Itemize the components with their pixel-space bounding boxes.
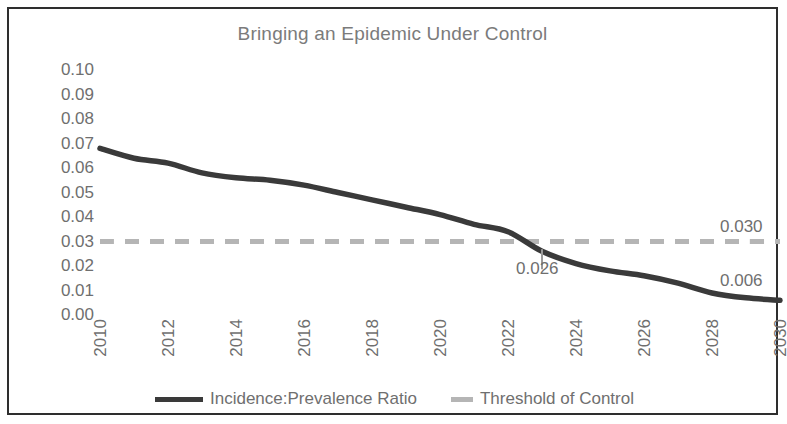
x-axis-tick-label: 2030 [771,319,787,357]
y-axis-tick-label: 0.09 [61,85,94,105]
data-label: 0.026 [516,259,559,279]
y-axis-tick-label: 0.03 [61,232,94,252]
y-axis-tick-label: 0.07 [61,134,94,154]
chart-legend: Incidence:Prevalence Ratio Threshold of … [9,389,780,409]
x-axis-tick-label: 2020 [431,319,451,357]
x-axis-tick-label: 2012 [159,319,179,357]
x-axis-tick-label: 2028 [703,319,723,357]
solid-line-swatch-icon [155,397,203,402]
y-axis-tick-label: 0.06 [61,158,94,178]
y-axis-tick-label: 0.04 [61,207,94,227]
y-axis-tick-label: 0.01 [61,281,94,301]
incidence-prevalence-line [100,148,780,300]
legend-label-incidence-prevalence-ratio: Incidence:Prevalence Ratio [210,389,417,409]
x-axis-tick-label: 2016 [295,319,315,357]
y-axis-tick-label: 0.10 [61,60,94,80]
y-axis-tick-label: 0.05 [61,183,94,203]
x-axis-tick-label: 2014 [227,319,247,357]
y-axis-tick-label: 0.00 [61,305,94,325]
chart-plot-svg [100,70,780,315]
legend-label-threshold-of-control: Threshold of Control [480,389,634,409]
chart-frame: Bringing an Epidemic Under Control 0.100… [7,7,778,415]
x-axis-tick-label: 2010 [91,319,111,357]
x-axis-tick-label: 2018 [363,319,383,357]
legend-item-threshold-of-control[interactable]: Threshold of Control [451,389,634,409]
y-axis-tick-label: 0.08 [61,109,94,129]
y-axis: 0.100.090.080.070.060.050.040.030.020.01… [9,70,94,315]
x-axis-tick-label: 2026 [635,319,655,357]
dashed-line-swatch-icon [451,397,473,402]
x-axis-tick-label: 2022 [499,319,519,357]
legend-item-incidence-prevalence-ratio[interactable]: Incidence:Prevalence Ratio [155,389,417,409]
data-label: 0.006 [720,271,763,291]
chart-title: Bringing an Epidemic Under Control [9,23,776,45]
y-axis-tick-label: 0.02 [61,256,94,276]
x-axis-tick-label: 2024 [567,319,587,357]
x-axis: 2010201220142016201820202022202420262028… [100,319,780,381]
data-label: 0.030 [720,217,763,237]
plot-area [100,70,780,315]
